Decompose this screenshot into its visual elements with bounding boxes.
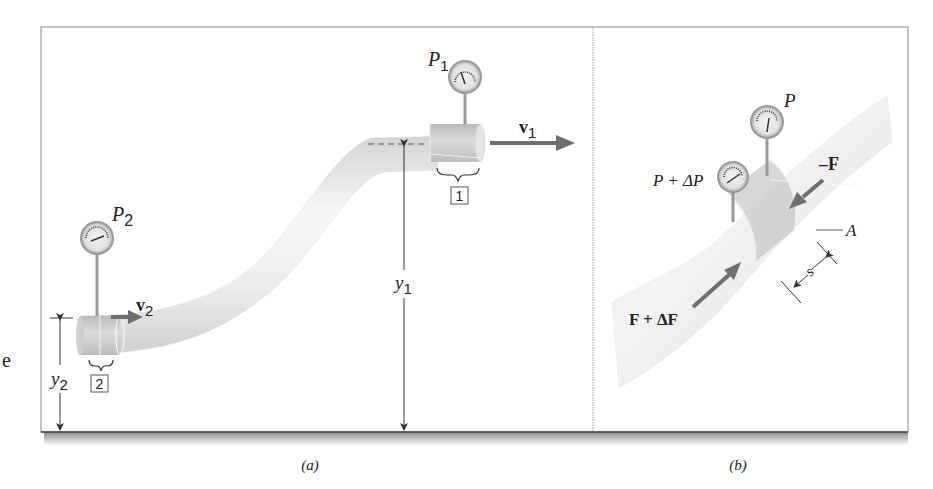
force-negative-label: –F xyxy=(818,154,839,174)
section-2-sleeve xyxy=(76,315,124,355)
section-1-number: 1 xyxy=(456,188,464,204)
caption-b: (b) xyxy=(729,457,747,474)
gauge-upper-label: P xyxy=(783,90,796,111)
caption-a: (a) xyxy=(301,457,319,474)
force-positive-label: F + ΔF xyxy=(629,310,678,329)
gauge-lower-label: P + ΔP xyxy=(652,171,703,190)
section-1-sleeve xyxy=(430,124,485,162)
fluid-pipe-diagram: e P2 xyxy=(0,0,933,489)
section-2-number: 2 xyxy=(96,376,104,392)
frame-shadow xyxy=(44,432,908,446)
area-label: A xyxy=(845,221,857,240)
stray-character: e xyxy=(2,349,11,371)
